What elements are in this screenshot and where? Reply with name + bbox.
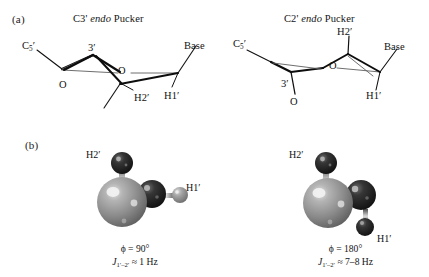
panel-a-tag: (a) <box>12 13 25 25</box>
specular-clarge-r-c <box>328 220 333 225</box>
label-ring-oxygen-right: O <box>329 60 337 71</box>
bond-c5-to-c4 <box>37 50 62 69</box>
figure-root: (a) C3' endo Pucker C5′ 3′ O O <box>0 0 429 277</box>
specular-h2 <box>116 157 121 162</box>
specular-clarge <box>107 187 120 197</box>
caption-j-sub-right: 1′–2′ <box>322 261 335 268</box>
label-h2-prime-right: H2′ <box>337 26 352 37</box>
caption-j-value-right: ≈ 7–8 Hz <box>335 256 373 267</box>
specular-clarge-b <box>131 200 138 207</box>
specular-h1-r <box>360 221 364 225</box>
specular-h2-r <box>320 157 325 162</box>
model-label-h1-left: H1′ <box>186 182 200 193</box>
label-hydroxyl-oxygen-left: O <box>59 79 67 90</box>
caption-model-left: ϕ = 90° J1′–2′ ≈ 1 Hz <box>40 243 230 271</box>
sphere-carbon-large-r <box>303 178 353 228</box>
specular-h1 <box>175 190 179 194</box>
bond-c5-to-c4-r <box>247 50 271 62</box>
bond-c1-to-base-r <box>380 49 397 72</box>
panel-a-right-title: C2' endo Pucker <box>284 13 355 24</box>
sphere-carbon-large <box>97 177 147 227</box>
caption-j-value-left: ≈ 1 Hz <box>129 256 157 267</box>
caption-j-right: J1′–2′ ≈ 7–8 Hz <box>248 256 429 272</box>
sphere-h2-prime-r <box>315 152 337 174</box>
caption-phi-left: ϕ = 90° <box>40 243 230 256</box>
title-prefix-c3: C3' <box>73 13 87 24</box>
bond-c1-to-h1-r <box>376 72 380 90</box>
model-label-h2-left: H2′ <box>86 149 100 160</box>
specular-h2-b <box>125 164 128 167</box>
title-italic-endo: endo <box>90 13 111 24</box>
caption-model-right: ϕ = 180° J1′–2′ ≈ 7–8 Hz <box>248 243 429 271</box>
bond-c2-to-h2-r <box>348 36 349 54</box>
specular-h2-r-b <box>329 164 332 167</box>
label-base-right: Base <box>384 41 405 52</box>
caption-j-left: J1′–2′ ≈ 1 Hz <box>40 256 230 272</box>
label-hydroxyl-oxygen-right: O <box>290 96 298 107</box>
label-h1-prime-left: H1′ <box>164 90 179 101</box>
title-suffix-pucker-2: Pucker <box>325 13 355 24</box>
specular-clarge-r-b <box>338 201 345 208</box>
label-c5-prime-left: C5′ <box>22 40 35 53</box>
label-h1-prime-right: H1′ <box>366 90 381 101</box>
c5-prime-mark: ′ <box>33 40 35 51</box>
caption-j-sub-left: 1′–2′ <box>117 261 130 268</box>
title-italic-endo-2: endo <box>301 13 322 24</box>
bond-c3-to-o-left <box>64 55 93 70</box>
title-prefix-c2: C2' <box>284 13 298 24</box>
label-c3-prime-left: 3′ <box>88 42 96 53</box>
bond-c2-to-h2 <box>122 84 133 90</box>
panel-a-left-title: C3' endo Pucker <box>73 13 144 24</box>
panel-b-tag: (b) <box>25 139 38 151</box>
bond-c2-to-c1 <box>120 73 178 84</box>
bond-c1-to-h1 <box>172 73 178 87</box>
model-label-h2-right: H2′ <box>289 149 303 160</box>
label-c3-prime-right: 3′ <box>281 78 289 89</box>
newman-model-180deg <box>285 145 405 245</box>
caption-phi-right: ϕ = 180° <box>248 243 429 256</box>
specular-cdark-r-b <box>365 196 369 200</box>
title-suffix-pucker: Pucker <box>114 13 144 24</box>
c5-prime-mark-r: ′ <box>244 38 246 49</box>
specular-cdark-r <box>352 186 358 192</box>
bond-c3-to-hydroxyl-r <box>291 72 295 94</box>
specular-clarge-c <box>122 219 127 224</box>
specular-cdark <box>144 185 150 191</box>
label-h2-prime-left: H2′ <box>134 92 149 103</box>
label-base-left: Base <box>184 40 205 51</box>
bond-c2-substituent <box>104 84 120 108</box>
sphere-h1-prime-r <box>356 218 374 236</box>
label-c5-prime-right: C5′ <box>233 38 246 51</box>
specular-clarge-r <box>313 188 326 198</box>
sphere-h2-prime <box>111 152 133 174</box>
specular-cdark-b <box>155 195 159 199</box>
label-ring-oxygen-left: O <box>118 65 126 76</box>
